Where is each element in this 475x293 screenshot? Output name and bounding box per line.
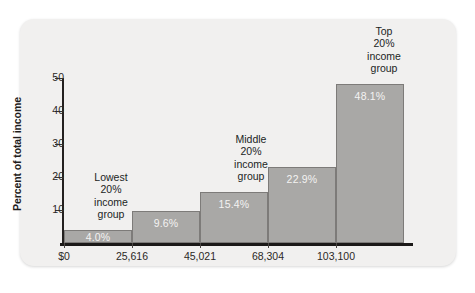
chart-plot-area: 50 40 30 20 10 Percent of total income 4…: [0, 0, 475, 293]
x-tick-mark-2: [132, 243, 133, 248]
annotation-lowest-line-3: income: [71, 196, 151, 208]
chart-figure: 50 40 30 20 10 Percent of total income 4…: [0, 0, 475, 293]
x-tick-label-1: $0: [27, 250, 101, 262]
bar-top-20[interactable]: 48.1%: [336, 84, 404, 243]
x-tick-label-4: 68,304: [231, 250, 305, 262]
x-tick-label-3: 45,021: [163, 250, 237, 262]
annotation-top-line-4: group: [344, 62, 424, 74]
annotation-middle-20-income-group: Middle 20% income group: [211, 133, 291, 183]
x-tick-mark-1: [64, 243, 65, 248]
annotation-top-line-2: 20%: [344, 37, 424, 49]
annotation-lowest-line-1: Lowest: [71, 171, 151, 183]
y-tick-40: 40: [0, 111, 64, 112]
y-tick-label-20: 20: [34, 171, 64, 182]
y-tick-label-50: 50: [34, 72, 64, 83]
annotation-middle-line-1: Middle: [211, 133, 291, 145]
bar-middle-20[interactable]: 15.4%: [200, 192, 268, 243]
bar-lowest-20[interactable]: 4.0%: [64, 230, 132, 243]
x-tick-mark-3: [200, 243, 201, 248]
y-tick-10: 10: [0, 210, 64, 211]
bar-value-label-1: 4.0%: [65, 231, 131, 243]
annotation-lowest-line-2: 20%: [71, 183, 151, 195]
x-tick-label-5: 103,100: [299, 250, 373, 262]
y-tick-20: 20: [0, 177, 64, 178]
annotation-top-line-3: income: [344, 50, 424, 62]
y-tick-label-10: 10: [34, 204, 64, 215]
annotation-middle-line-2: 20%: [211, 145, 291, 157]
annotation-middle-line-3: income: [211, 158, 291, 170]
bar-value-label-3: 15.4%: [201, 198, 267, 210]
y-axis-title: Percent of total income: [11, 94, 23, 214]
y-tick-label-40: 40: [34, 105, 64, 116]
x-tick-label-2: 25,616: [95, 250, 169, 262]
x-axis-line: [60, 243, 413, 246]
y-tick-50: 50: [0, 78, 64, 79]
annotation-lowest-20-income-group: Lowest 20% income group: [71, 171, 151, 221]
y-tick-30: 30: [0, 144, 64, 145]
annotation-top-20-income-group: Top 20% income group: [344, 25, 424, 75]
y-tick-label-30: 30: [34, 138, 64, 149]
annotation-middle-line-4: group: [211, 170, 291, 182]
annotation-top-line-1: Top: [344, 25, 424, 37]
x-tick-mark-5: [336, 243, 337, 248]
annotation-lowest-line-4: group: [71, 208, 151, 220]
x-tick-mark-4: [268, 243, 269, 248]
bar-value-label-5: 48.1%: [337, 90, 403, 102]
